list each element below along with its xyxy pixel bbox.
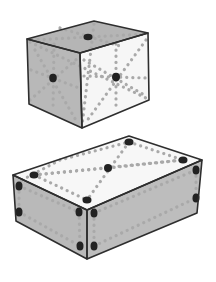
box [13,136,202,259]
marker-dot-top-center [104,164,112,172]
marker-dot-top-front-corner [83,197,92,204]
marker-dot-right-face-center [112,73,120,81]
illustration-canvas [0,0,216,282]
marker-dot-left-face-center [49,74,57,82]
cube-left-face [27,39,82,128]
marker-dot-right-upper-right [193,166,200,175]
marker-dot-right-lower-left [91,242,98,251]
marker-dot-top-left-corner [30,172,39,179]
marker-dot-left-upper-left [16,182,23,191]
marker-dot-right-upper-left [91,209,98,218]
marker-dot-top-right-corner [179,157,188,164]
marker-dot-left-upper-right [76,208,83,217]
cube [27,21,149,128]
marker-dot-left-lower-right [77,242,84,251]
marker-dot-top-back-corner [125,139,134,146]
marker-dot-top-face-center [84,34,93,40]
marker-dot-left-lower-left [16,208,23,217]
